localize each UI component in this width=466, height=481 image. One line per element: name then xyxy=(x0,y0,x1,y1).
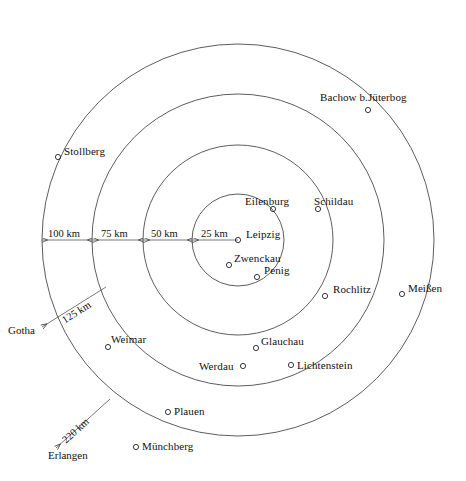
marker-muenchberg xyxy=(133,444,138,449)
scale-label-25km: 25 km xyxy=(201,228,228,239)
place-label-muenchberg: Münchberg xyxy=(142,441,193,452)
map-canvas xyxy=(0,0,466,481)
place-label-gotha: Gotha xyxy=(8,325,35,336)
place-markers xyxy=(55,107,404,449)
scale-label-50km: 50 km xyxy=(151,228,178,239)
place-label-bachow: Bachow b.Jüterbog xyxy=(320,92,407,103)
scale-label-100km: 100 km xyxy=(48,228,80,239)
marker-weimar xyxy=(105,344,110,349)
marker-zwenckau xyxy=(226,262,231,267)
marker-schildau xyxy=(315,206,320,211)
distance-ring-map: 100 km 75 km 50 km 25 km 125 km 220 km G… xyxy=(0,0,466,481)
scale-label-75km: 75 km xyxy=(101,228,128,239)
place-label-lichtenstein: Lichtenstein xyxy=(297,360,353,371)
marker-eilenburg xyxy=(270,206,275,211)
marker-meissen xyxy=(399,291,404,296)
marker-penig xyxy=(254,274,259,279)
marker-werdau xyxy=(240,363,245,368)
place-label-glauchau: Glauchau xyxy=(261,336,304,347)
place-label-zwenckau: Zwenckau xyxy=(234,253,281,264)
marker-lichtenstein xyxy=(288,362,293,367)
place-label-stollberg: Stollberg xyxy=(64,146,105,157)
place-label-rochlitz: Rochlitz xyxy=(333,284,371,295)
place-label-schildau: Schildau xyxy=(314,196,353,207)
place-label-eilenburg: Eilenburg xyxy=(245,196,289,207)
place-label-penig: Penig xyxy=(264,265,290,276)
place-label-erlangen: Erlangen xyxy=(48,450,88,461)
marker-bachow xyxy=(365,107,370,112)
place-label-werdau: Werdau xyxy=(199,361,234,372)
marker-glauchau xyxy=(253,345,258,350)
place-label-weimar: Weimar xyxy=(111,334,146,345)
place-label-meissen: Meißen xyxy=(408,283,442,294)
marker-plauen xyxy=(165,409,170,414)
marker-rochlitz xyxy=(322,293,327,298)
marker-stollberg xyxy=(55,154,60,159)
place-label-leipzig: Leipzig xyxy=(246,229,280,240)
place-label-plauen: Plauen xyxy=(174,406,205,417)
